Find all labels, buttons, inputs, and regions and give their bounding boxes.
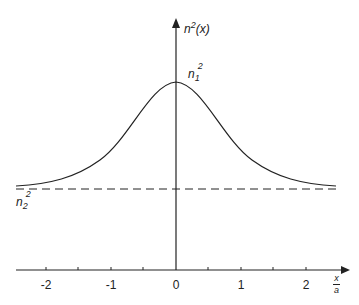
x-axis-arrow-icon [341, 266, 350, 274]
tick-label: 1 [238, 278, 245, 292]
peak-label: n12 [188, 66, 205, 83]
asymptote-label: n22 [16, 194, 33, 211]
tick-label: 0 [173, 278, 180, 292]
graph-canvas [0, 0, 359, 305]
y-axis-label: n2(x) [184, 21, 210, 35]
y-axis-arrow-icon [172, 18, 180, 28]
tick-label: -1 [106, 278, 117, 292]
tick-label: 2 [303, 278, 310, 292]
tick-label: -2 [41, 278, 52, 292]
x-axis-label: x a [333, 274, 340, 295]
